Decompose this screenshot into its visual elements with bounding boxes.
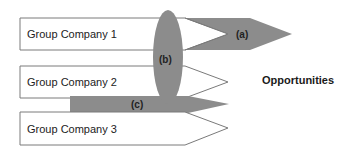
marker-c: (c) bbox=[131, 99, 143, 110]
company-box-2: Group Company 2 bbox=[20, 66, 228, 98]
company-label-2: Group Company 2 bbox=[27, 76, 117, 88]
opportunities-label: Opportunities bbox=[262, 74, 334, 86]
arrow-c-shape bbox=[70, 96, 229, 113]
company-label-1: Group Company 1 bbox=[27, 28, 117, 40]
marker-a: (a) bbox=[236, 29, 248, 40]
company-box-3: Group Company 3 bbox=[20, 112, 228, 145]
marker-b: (b) bbox=[159, 54, 172, 65]
company-label-3: Group Company 3 bbox=[27, 123, 117, 135]
group-synergy-diagram: Group Company 1 Group Company 2 Group Co… bbox=[0, 0, 350, 156]
